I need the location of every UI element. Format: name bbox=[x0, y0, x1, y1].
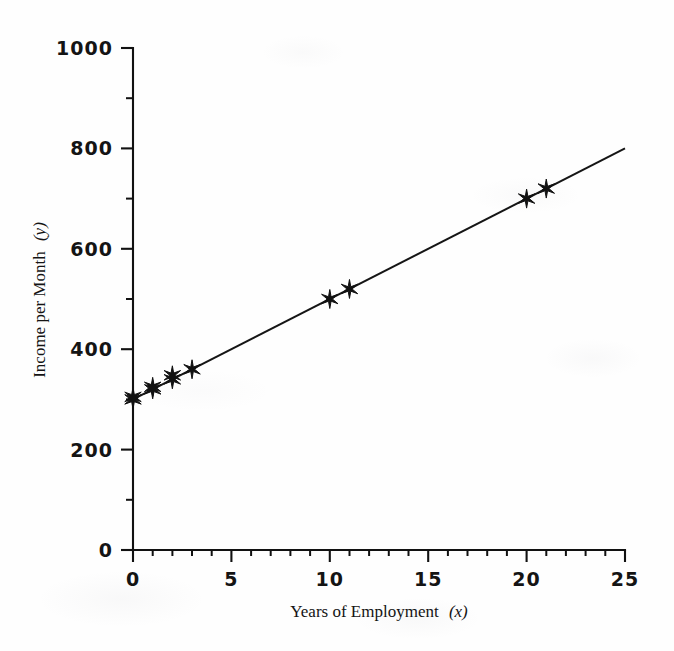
x-tick-label-15: 15 bbox=[414, 568, 442, 590]
y-tick-label-400: 400 bbox=[70, 338, 113, 360]
x-tick-label-20: 20 bbox=[512, 568, 540, 590]
y-tick-label-0: 0 bbox=[99, 539, 113, 561]
x-axis-tick-labels: 0 5 10 15 20 25 bbox=[126, 568, 639, 590]
scatter-plot-with-regression-line: 1000 800 600 400 200 0 0 5 10 15 20 25 Y… bbox=[0, 0, 674, 651]
y-tick-label-800: 800 bbox=[70, 137, 113, 159]
data-point-marker bbox=[518, 189, 534, 208]
svg-text:Income per Month (y): Income per Month (y) bbox=[30, 222, 49, 378]
y-axis-title-text: Income per Month bbox=[30, 251, 49, 378]
y-tick-label-200: 200 bbox=[70, 439, 113, 461]
y-axis-tick-labels: 1000 800 600 400 200 0 bbox=[56, 37, 113, 561]
y-axis-title: Income per Month (y) bbox=[30, 222, 49, 378]
x-axis-major-ticks bbox=[133, 550, 625, 562]
x-axis-title-text: Years of Employment bbox=[290, 602, 439, 621]
figure-canvas: 1000 800 600 400 200 0 0 5 10 15 20 25 Y… bbox=[0, 0, 674, 651]
axes-group bbox=[133, 48, 625, 550]
data-point-marker bbox=[184, 360, 200, 379]
x-tick-label-25: 25 bbox=[611, 568, 639, 590]
y-axis-title-variable: (y) bbox=[30, 222, 49, 241]
x-tick-label-0: 0 bbox=[126, 568, 140, 590]
y-tick-label-600: 600 bbox=[70, 238, 113, 260]
y-tick-label-1000: 1000 bbox=[56, 37, 113, 59]
x-tick-label-10: 10 bbox=[316, 568, 344, 590]
x-axis-title: Years of Employment (x) bbox=[290, 602, 468, 621]
x-axis-title-variable: (x) bbox=[449, 602, 468, 621]
x-tick-label-5: 5 bbox=[224, 568, 238, 590]
svg-text:Years of Employment (x: Years of Employment (x) bbox=[290, 602, 468, 621]
data-point-marker bbox=[341, 279, 357, 298]
data-point-marker bbox=[538, 179, 554, 198]
data-point-marker bbox=[322, 290, 338, 309]
